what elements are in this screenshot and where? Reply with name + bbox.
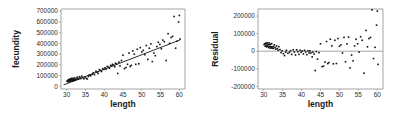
data-point	[286, 50, 288, 52]
data-point	[340, 44, 342, 46]
data-point	[312, 51, 314, 53]
data-point	[267, 42, 269, 44]
data-points-fecundity	[66, 15, 181, 83]
data-point	[165, 60, 167, 62]
x-tick-label: 50	[138, 91, 146, 98]
x-tick-label: 35	[279, 91, 287, 98]
data-point	[331, 45, 333, 47]
x-tick-label: 50	[336, 91, 344, 98]
data-point	[313, 53, 315, 55]
data-point	[156, 46, 158, 48]
data-points-residual	[263, 9, 379, 74]
data-point	[360, 36, 362, 38]
data-point	[292, 49, 294, 51]
data-point	[267, 44, 269, 46]
data-point	[365, 30, 367, 32]
data-point	[141, 51, 143, 53]
data-point	[117, 73, 119, 75]
data-point	[130, 65, 132, 67]
data-point	[276, 45, 278, 47]
data-point	[295, 54, 297, 56]
data-point	[142, 50, 144, 52]
data-point	[321, 66, 323, 68]
data-point	[307, 50, 309, 52]
data-point	[122, 54, 124, 56]
data-point	[271, 43, 273, 45]
y-tick-label: 400000	[36, 40, 58, 47]
y-tick-label: 300000	[36, 50, 58, 57]
data-point	[135, 64, 137, 66]
data-point	[114, 66, 116, 68]
data-point	[311, 56, 313, 58]
data-point	[318, 52, 320, 54]
data-point	[277, 48, 279, 50]
data-point	[294, 51, 296, 53]
data-point	[285, 51, 287, 53]
data-point	[152, 61, 154, 63]
data-point	[281, 50, 283, 52]
data-point	[291, 54, 293, 56]
data-point	[357, 43, 359, 45]
y-axis-title-fecundity: fecundity	[11, 30, 21, 68]
data-point	[377, 64, 379, 66]
data-point	[275, 48, 277, 50]
data-point	[343, 37, 345, 39]
data-point	[179, 38, 181, 40]
data-point	[300, 51, 302, 53]
data-point	[290, 50, 292, 52]
chart-panel-fecundity: 0100000200000300000400000500000600000700…	[0, 0, 201, 124]
data-point	[317, 58, 319, 60]
data-point	[94, 74, 96, 76]
data-point	[155, 55, 157, 57]
data-point	[320, 43, 322, 45]
data-point	[158, 41, 160, 43]
data-point	[81, 75, 83, 77]
data-point	[316, 51, 318, 53]
data-point	[296, 49, 298, 51]
fecundity-scatter-plot: 0100000200000300000400000500000600000700…	[0, 0, 201, 124]
data-point	[308, 52, 310, 54]
data-point	[304, 50, 306, 52]
data-point	[287, 53, 289, 55]
data-point	[124, 68, 126, 70]
data-point	[119, 65, 121, 67]
data-point	[133, 53, 135, 55]
data-point	[128, 52, 130, 54]
data-point	[354, 45, 356, 47]
y-tick-label: 700000	[36, 7, 58, 14]
data-point	[346, 43, 348, 45]
data-point	[284, 55, 286, 57]
data-point	[371, 9, 373, 11]
data-point	[162, 39, 164, 41]
x-tick-label: 30	[260, 91, 268, 98]
y-tick-label: 500000	[36, 29, 58, 36]
data-point	[118, 61, 120, 63]
data-point	[173, 16, 175, 18]
data-point	[352, 60, 354, 62]
data-point	[273, 48, 275, 50]
data-point	[289, 51, 291, 53]
data-point	[172, 36, 174, 38]
data-point	[324, 61, 326, 63]
y-tick-label: 200000	[233, 12, 255, 19]
x-tick-label: 55	[355, 91, 363, 98]
data-point	[268, 42, 270, 44]
data-point	[348, 36, 350, 38]
data-point	[336, 63, 338, 65]
x-axis-tick-labels-residual: 30354045505560	[260, 91, 381, 98]
data-point	[333, 63, 335, 65]
data-point	[297, 51, 299, 53]
data-point	[90, 75, 92, 77]
residual-scatter-plot: -200000-1000000100000200000 303540455055…	[201, 0, 402, 124]
data-point	[274, 47, 276, 49]
data-point	[326, 41, 328, 43]
data-point	[330, 38, 332, 40]
data-point	[175, 47, 177, 49]
x-tick-label: 55	[157, 91, 165, 98]
x-axis-tick-labels-fecundity: 30354045505560	[63, 91, 183, 98]
x-tick-label: 40	[101, 91, 109, 98]
data-point	[345, 61, 347, 63]
data-point	[337, 38, 339, 40]
x-tick-label: 60	[176, 91, 184, 98]
y-tick-label: 0	[54, 83, 58, 90]
